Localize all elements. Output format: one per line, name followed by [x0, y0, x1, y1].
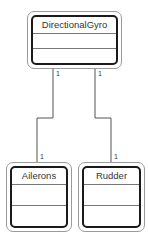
multiplicity-label: 1: [56, 70, 60, 78]
class-operations-compartment: [33, 49, 116, 63]
class-attributes-compartment: [33, 34, 116, 49]
class-attributes-compartment: [84, 185, 139, 206]
class-name: Ailerons: [12, 168, 66, 185]
class-operations-compartment: [12, 206, 66, 226]
multiplicity-label: 1: [98, 70, 102, 78]
class-name: DirectionalGyro: [33, 17, 116, 34]
multiplicity-label: 1: [114, 153, 118, 161]
association-gyro-ailerons: [37, 67, 53, 162]
multiplicity-label: 1: [40, 153, 44, 161]
class-operations-compartment: [84, 206, 139, 226]
class-name: Rudder: [84, 168, 139, 185]
class-directional-gyro[interactable]: DirectionalGyro: [27, 11, 122, 69]
class-attributes-compartment: [12, 185, 66, 206]
association-gyro-rudder: [95, 67, 111, 162]
class-ailerons[interactable]: Ailerons: [6, 162, 72, 232]
class-rudder[interactable]: Rudder: [78, 162, 145, 232]
